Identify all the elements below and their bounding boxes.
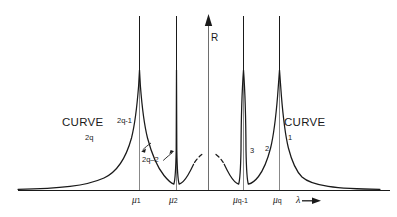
curve-left-order-label: 2q <box>85 134 93 142</box>
tick-sub-mu-q: q <box>278 197 282 204</box>
order-2-label: 2 <box>265 145 269 153</box>
order-2q-minus-2-label: 2q–2 <box>142 156 159 164</box>
order-2q-minus-1-label: 2q-1 <box>117 117 132 125</box>
tick-label-mu-q: μq <box>273 196 282 206</box>
curve-right-order-label: 1 <box>288 134 292 142</box>
resonance-curve-figure: R CURVE 2q 2q-1 2q–2 3 2 CURVE 1 μ1 μ2 μ… <box>0 0 397 217</box>
r-axis-arrowhead <box>205 14 212 26</box>
resonance-curve-left <box>18 70 194 189</box>
lambda-axis-label: λ <box>296 195 300 205</box>
curve-break-dashes-right <box>216 154 223 162</box>
tick-sub-mu1: 1 <box>137 197 141 204</box>
r-axis-label: R <box>211 33 218 43</box>
tick-sub-mu2: 2 <box>174 197 178 204</box>
tick-label-mu2: μ2 <box>169 196 178 206</box>
resonance-curve-right <box>224 70 380 189</box>
leader-line-2q-minus-2 <box>163 153 172 161</box>
curve-break-dashes-left <box>195 154 202 162</box>
tick-label-mu-q-minus-1: μq-1 <box>233 196 248 206</box>
curve-left-label: CURVE <box>62 117 104 129</box>
tick-label-mu1: μ1 <box>132 196 141 206</box>
plot-canvas <box>0 0 397 217</box>
curve-right-label: CURVE <box>284 117 326 129</box>
tick-sub-mu-q-minus-1: q-1 <box>238 197 248 204</box>
order-3-label: 3 <box>250 147 254 155</box>
